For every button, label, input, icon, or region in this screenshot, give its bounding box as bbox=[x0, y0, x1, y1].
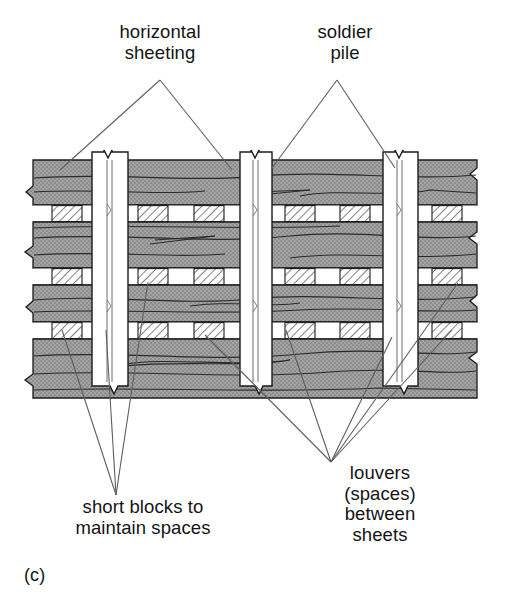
short-block bbox=[432, 206, 462, 222]
leader-sheeting-right bbox=[160, 80, 232, 170]
short-block bbox=[52, 206, 82, 222]
short-block bbox=[285, 269, 315, 285]
label-horizontal-sheeting: horizontal sheeting bbox=[60, 22, 260, 63]
short-block bbox=[52, 323, 82, 339]
short-block bbox=[340, 206, 370, 222]
leader-pile-right bbox=[337, 80, 395, 168]
short-block bbox=[52, 269, 82, 285]
short-block bbox=[340, 269, 370, 285]
short-block bbox=[194, 269, 224, 285]
short-block bbox=[285, 323, 315, 339]
soldier-pile bbox=[383, 150, 418, 394]
figure-panel-label: (c) bbox=[24, 565, 104, 585]
label-soldier-pile: soldier pile bbox=[250, 22, 440, 63]
soldier-pile bbox=[92, 150, 128, 394]
leader-pile-left bbox=[272, 80, 337, 168]
short-block bbox=[194, 323, 224, 339]
short-block bbox=[340, 323, 370, 339]
soldier-pile bbox=[240, 150, 272, 394]
short-block bbox=[138, 206, 168, 222]
label-louvers: louvers (spaces) between sheets bbox=[305, 463, 455, 546]
label-short-blocks: short blocks to maintain spaces bbox=[18, 497, 268, 538]
short-block bbox=[138, 269, 168, 285]
figure-container: horizontal sheeting soldier pile short b… bbox=[0, 0, 510, 609]
short-block bbox=[194, 206, 224, 222]
short-block bbox=[138, 323, 168, 339]
short-block bbox=[285, 206, 315, 222]
short-block bbox=[432, 269, 462, 285]
